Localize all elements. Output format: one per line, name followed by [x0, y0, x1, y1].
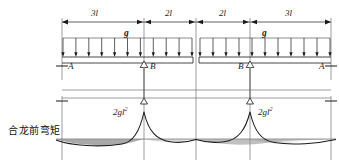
structural-moment-diagram — [0, 0, 339, 162]
node-label-A-right: A — [319, 62, 325, 71]
dimension-label-1: 3l — [91, 9, 98, 18]
moment-peak-value-right: 2gl — [258, 107, 270, 117]
figure-background — [0, 0, 339, 162]
moment-peak-exponent-right: 2 — [270, 106, 273, 112]
node-label-A-left: A — [68, 62, 74, 71]
moment-peak-label-left: 2gl2 — [113, 106, 128, 117]
moment-peak-value-left: 2gl — [113, 107, 125, 117]
node-label-B-right: B — [238, 62, 244, 71]
dimension-label-3: 2l — [219, 9, 226, 18]
load-label-right: g — [262, 29, 267, 39]
load-label-left: g — [124, 29, 129, 39]
dimension-label-4: 3l — [285, 9, 292, 18]
moment-peak-label-right: 2gl2 — [258, 106, 273, 117]
moment-peak-exponent-left: 2 — [125, 106, 128, 112]
figure-caption: 合龙前弯矩 — [8, 126, 61, 136]
node-label-B-left: B — [150, 62, 156, 71]
dimension-label-2: 2l — [165, 9, 172, 18]
